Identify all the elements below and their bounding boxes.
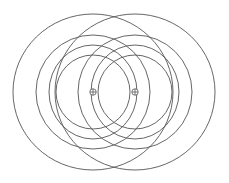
concentric-rings-diagram — [0, 0, 229, 183]
right-focus-crosshair-icon — [132, 89, 138, 95]
diagram-canvas — [0, 0, 229, 183]
focus-markers — [90, 89, 138, 95]
left-focus-crosshair-icon — [90, 89, 96, 95]
